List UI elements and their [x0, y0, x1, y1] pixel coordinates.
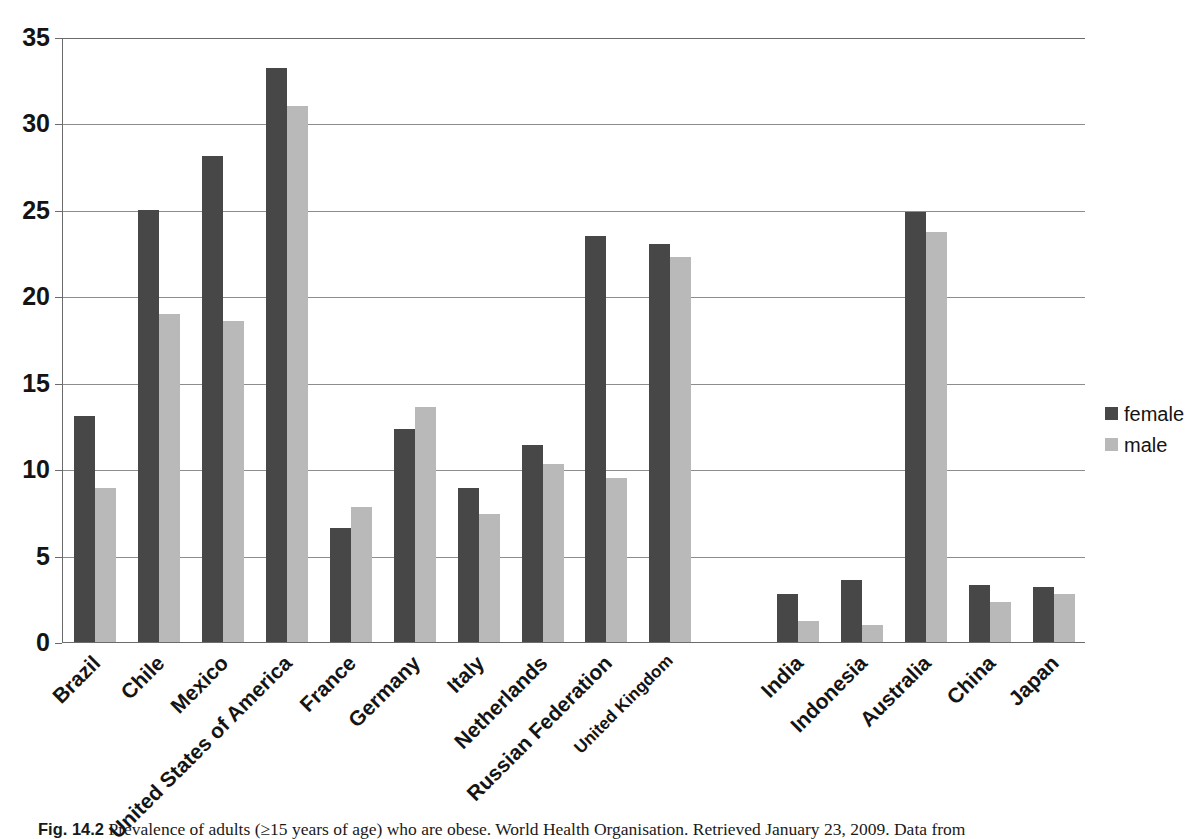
y-axis-tick-label: 10	[0, 457, 50, 482]
figure-caption-text: Prevalence of adults (≥15 years of age) …	[108, 819, 965, 839]
bar-male	[670, 257, 691, 642]
bar-series-container	[63, 38, 1085, 642]
y-axis-tick-mark	[55, 470, 62, 471]
bar-group	[266, 38, 308, 642]
bar-female	[585, 236, 606, 642]
bar-male	[990, 602, 1011, 642]
bar-group	[649, 38, 691, 642]
y-axis-tick-mark	[55, 38, 62, 39]
figure-caption: Fig. 14.2 Prevalence of adults (≥15 year…	[38, 818, 1168, 839]
bar-female	[969, 585, 990, 642]
legend-swatch-female-icon	[1105, 407, 1118, 420]
bar-group	[202, 38, 244, 642]
y-axis-tick-label: 35	[0, 25, 50, 50]
bar-group	[777, 38, 819, 642]
y-axis-tick-mark	[55, 124, 62, 125]
bar-group	[394, 38, 436, 642]
bar-female	[522, 445, 543, 642]
x-axis-label: China	[942, 651, 1000, 709]
bar-group	[1033, 38, 1075, 642]
legend-label-female: female	[1124, 404, 1184, 424]
y-axis-tick-mark	[55, 297, 62, 298]
bar-group	[969, 38, 1011, 642]
bar-male	[926, 232, 947, 642]
bar-female	[905, 212, 926, 642]
bar-group	[330, 38, 372, 642]
bar-male	[287, 106, 308, 642]
legend-label-male: male	[1124, 435, 1167, 455]
bar-female	[138, 210, 159, 642]
x-axis-label: Japan	[1004, 651, 1064, 711]
bar-female	[74, 416, 95, 642]
bar-male	[479, 514, 500, 642]
y-axis-tick-label: 25	[0, 198, 50, 223]
legend-item-male: male	[1105, 429, 1195, 460]
bar-group	[522, 38, 564, 642]
y-axis-tick-label: 20	[0, 284, 50, 309]
bar-male	[1054, 594, 1075, 642]
x-axis-label: Chile	[116, 651, 169, 704]
y-axis-tick-label: 5	[0, 544, 50, 569]
bar-group	[905, 38, 947, 642]
bar-female	[777, 594, 798, 642]
bar-group	[458, 38, 500, 642]
figure-container: 05101520253035 BrazilChileMexicoUnited S…	[0, 0, 1196, 839]
bar-female	[458, 488, 479, 642]
legend-item-female: female	[1105, 398, 1195, 429]
x-axis-label: India	[757, 651, 809, 703]
bar-group	[841, 38, 883, 642]
bar-female	[649, 244, 670, 642]
bar-female	[266, 68, 287, 642]
bar-female	[330, 528, 351, 642]
bar-male	[862, 625, 883, 642]
bar-female	[841, 580, 862, 642]
bar-male	[415, 407, 436, 642]
y-axis-tick-mark	[55, 384, 62, 385]
bar-male	[159, 314, 180, 642]
bar-group	[74, 38, 116, 642]
legend-swatch-male-icon	[1105, 438, 1118, 451]
y-axis-tick-label: 30	[0, 111, 50, 136]
bar-male	[606, 478, 627, 642]
x-axis-labels: BrazilChileMexicoUnited States of Americ…	[0, 647, 1196, 777]
bar-male	[223, 321, 244, 643]
figure-number: Fig. 14.2	[38, 820, 104, 838]
bar-chart: 05101520253035 BrazilChileMexicoUnited S…	[0, 0, 1196, 780]
chart-legend: female male	[1105, 398, 1195, 460]
bar-group	[138, 38, 180, 642]
y-axis-tick-label: 15	[0, 371, 50, 396]
y-axis-tick-mark	[55, 211, 62, 212]
x-axis-label: Brazil	[48, 651, 105, 708]
bar-male	[798, 621, 819, 642]
bar-male	[95, 488, 116, 642]
bar-female	[202, 156, 223, 642]
plot-area	[62, 38, 1085, 643]
bar-male	[543, 464, 564, 642]
y-axis-tick-mark	[55, 643, 62, 644]
y-axis-tick-mark	[55, 557, 62, 558]
x-axis-label: Italy	[442, 651, 489, 698]
bar-male	[351, 507, 372, 642]
bar-group	[585, 38, 627, 642]
bar-female	[394, 429, 415, 642]
bar-female	[1033, 587, 1054, 642]
